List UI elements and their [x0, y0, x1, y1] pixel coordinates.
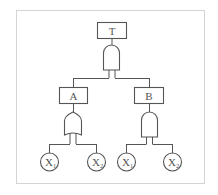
- basic-event-X1-b: X1: [118, 153, 136, 171]
- basic-event-X1-a: X1: [41, 153, 59, 171]
- event-A: A: [60, 88, 88, 104]
- event-A-label: A: [70, 90, 78, 102]
- and-gate-icon: [104, 45, 120, 70]
- or-gate-icon: [65, 112, 82, 135]
- top-event-label: T: [109, 25, 116, 37]
- event-B: B: [135, 88, 164, 104]
- basic-event-X2-a: X2: [88, 153, 106, 171]
- event-B-label: B: [145, 90, 152, 102]
- fault-tree-diagram: T A B X1 X2 X1: [0, 0, 218, 195]
- basic-event-X2-b: X2: [164, 153, 182, 171]
- top-event-T: T: [98, 23, 127, 39]
- and-gate-icon: [142, 112, 158, 137]
